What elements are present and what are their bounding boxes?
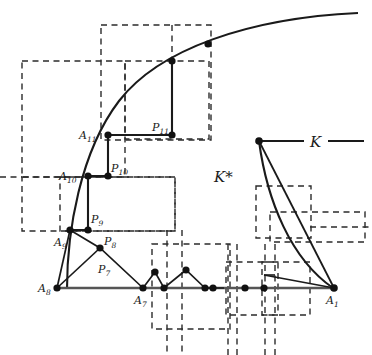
point-zig-7	[260, 284, 267, 291]
point-a9	[66, 226, 73, 233]
label-a10-sub: 10	[67, 176, 77, 185]
label-a9-base: A	[53, 236, 62, 249]
label-p10-sub: 10	[118, 168, 128, 177]
label-k-star: K*	[213, 168, 233, 186]
label-k-star-text: K*	[213, 168, 233, 186]
label-a11-sub: 11	[87, 135, 97, 144]
label-a8-sub: 8	[46, 288, 51, 297]
label-p7: P7	[97, 263, 110, 278]
label-a1-sub: 1	[334, 300, 339, 309]
point-zig-1	[151, 268, 158, 275]
label-p7-sub: 7	[105, 269, 110, 278]
dashed-box-group	[0, 25, 372, 355]
staircase-polyline	[70, 61, 172, 230]
label-a8: A8	[37, 282, 51, 297]
label-a9: A9	[53, 236, 67, 251]
point-curve-upper-1	[168, 57, 175, 64]
label-a8-base: A	[37, 282, 46, 295]
label-a7: A7	[133, 294, 147, 309]
label-p10: P10	[110, 162, 128, 177]
point-k0	[255, 137, 263, 145]
point-a7	[139, 284, 146, 291]
point-a8	[53, 284, 60, 291]
label-k: K	[309, 133, 322, 151]
point-a11	[104, 131, 111, 138]
point-zig-6	[241, 284, 248, 291]
label-a10-base: A	[58, 170, 67, 183]
point-zig-2	[160, 284, 167, 291]
label-p11-sub: 11	[159, 127, 169, 136]
segment-a8-p8	[57, 248, 100, 288]
label-a7-base: A	[133, 294, 142, 307]
point-p8	[96, 244, 103, 251]
label-p9-sub: 9	[98, 219, 103, 228]
label-a9-sub: 9	[62, 242, 67, 251]
label-p9: P9	[90, 213, 103, 228]
point-zig-5	[209, 284, 216, 291]
label-a1-base: A	[325, 294, 334, 307]
dashed-box-left-tall	[22, 61, 125, 177]
point-zig-4	[201, 284, 208, 291]
marker-dot-group	[53, 40, 337, 291]
label-k-text: K	[309, 133, 322, 151]
label-a10: A10	[58, 170, 77, 185]
label-a7-sub: 7	[142, 300, 147, 309]
label-a11: A11	[78, 129, 97, 144]
point-a1	[330, 284, 338, 292]
label-p8-sub: 8	[111, 241, 116, 250]
label-a11-base: A	[78, 129, 87, 142]
geometry-diagram: K* K A11 A10 A9 A8 A7 A1	[0, 0, 372, 355]
point-curve-upper-2	[204, 40, 211, 47]
figure-canvas: K* K A11 A10 A9 A8 A7 A1	[0, 0, 372, 355]
label-a1: A1	[325, 294, 339, 309]
point-a10	[84, 172, 91, 179]
point-p11	[168, 131, 175, 138]
point-zig-3	[182, 266, 189, 273]
point-p9	[84, 226, 91, 233]
label-p8: P8	[103, 235, 116, 250]
dashed-box-p9-right	[60, 177, 175, 231]
label-p11: P11	[151, 121, 169, 136]
